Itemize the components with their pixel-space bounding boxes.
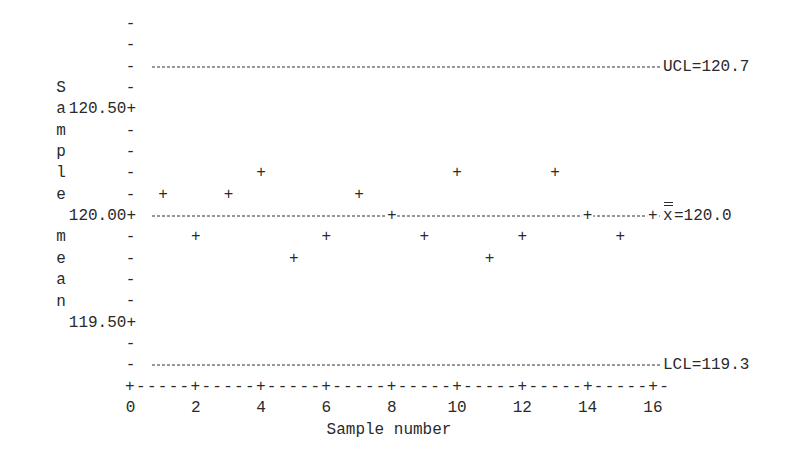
x-double-bar-symbol: x=120.0 <box>663 207 673 225</box>
data-point: + <box>582 208 594 224</box>
data-point: + <box>549 165 561 181</box>
data-point: + <box>353 187 365 203</box>
x-tick-label: 6 <box>322 400 332 416</box>
y-tick-label: 119.50+ <box>69 315 136 331</box>
data-point: + <box>484 251 496 267</box>
x-tick-label: 0 <box>126 400 136 416</box>
y-axis-dash: - <box>126 123 136 139</box>
x-tick-label: 14 <box>578 400 597 416</box>
data-point: + <box>647 208 659 224</box>
x-tick-label: 10 <box>447 400 466 416</box>
y-axis-dash: - <box>126 165 136 181</box>
y-axis-dash: - <box>126 229 136 245</box>
y-axis-label-char: m <box>56 229 66 245</box>
y-axis-label-char: e <box>56 251 66 267</box>
y-axis-label-char: a <box>56 272 66 288</box>
y-axis-label-char: S <box>56 80 66 96</box>
y-axis-label-char: a <box>56 101 66 117</box>
data-point: + <box>255 165 267 181</box>
y-axis-label-char: e <box>56 187 66 203</box>
data-point: + <box>386 208 398 224</box>
data-point: + <box>288 251 300 267</box>
data-point: + <box>516 229 528 245</box>
y-axis-dash: - <box>126 144 136 160</box>
data-point: + <box>614 229 626 245</box>
data-point: + <box>451 165 463 181</box>
y-axis-dash: - <box>126 357 136 373</box>
y-axis-dash: - <box>126 336 136 352</box>
xbar-control-chart: Samplemean ----120.50+----120.00+----119… <box>0 0 799 459</box>
y-axis-dash: - <box>126 251 136 267</box>
ucl-line <box>152 66 660 67</box>
data-point: + <box>223 187 235 203</box>
data-point: + <box>190 229 202 245</box>
y-axis-dash: - <box>126 37 136 53</box>
y-axis-label-char: l <box>56 165 66 181</box>
x-tick-label: 8 <box>387 400 397 416</box>
y-axis-label-char: p <box>56 144 66 160</box>
lcl-line <box>152 365 660 366</box>
x-axis-label: Sample number <box>327 422 452 438</box>
data-point: + <box>419 229 431 245</box>
y-axis-dash: - <box>126 16 136 32</box>
ucl-label: UCL=120.7 <box>663 59 749 75</box>
center-label: =120.0 <box>674 207 732 225</box>
x-tick-label: 12 <box>513 400 532 416</box>
y-axis-dash: - <box>126 59 136 75</box>
x-tick-label: 4 <box>256 400 266 416</box>
y-axis-dash: - <box>126 272 136 288</box>
y-axis-label-char: n <box>56 294 66 310</box>
data-point: + <box>157 187 169 203</box>
x-tick-label: 2 <box>191 400 201 416</box>
data-point: + <box>321 229 333 245</box>
x-tick-label: 16 <box>643 400 662 416</box>
y-axis-dash: - <box>126 187 136 203</box>
y-axis-dash: - <box>126 80 136 96</box>
x-axis-line: +-----+-----+-----+-----+-----+-----+---… <box>125 379 670 395</box>
lcl-label: LCL=119.3 <box>663 357 749 373</box>
y-axis-dash: - <box>126 293 136 309</box>
y-axis-label-char: m <box>56 123 66 139</box>
y-tick-label: 120.00+ <box>69 208 136 224</box>
y-tick-label: 120.50+ <box>69 101 136 117</box>
